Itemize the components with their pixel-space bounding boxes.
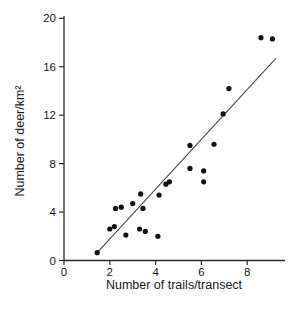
- x-tick-label: 8: [244, 266, 250, 278]
- data-point: [156, 193, 161, 198]
- x-tick-label: 2: [107, 266, 113, 278]
- data-point: [258, 35, 263, 40]
- x-tick-label: 6: [198, 266, 204, 278]
- data-point: [113, 206, 118, 211]
- data-point: [130, 201, 135, 206]
- data-point: [155, 234, 160, 239]
- scatter-plot-figure: 02468048121620 Number of trails/transect…: [0, 0, 308, 309]
- data-point: [123, 232, 128, 237]
- data-point: [187, 143, 192, 148]
- data-point: [201, 179, 206, 184]
- x-tick-label: 0: [61, 266, 67, 278]
- data-point: [95, 250, 100, 255]
- y-tick-label: 8: [50, 158, 56, 170]
- data-point: [201, 168, 206, 173]
- data-point: [226, 86, 231, 91]
- data-point: [167, 179, 172, 184]
- x-tick-label: 4: [152, 266, 159, 278]
- data-point: [137, 226, 142, 231]
- data-point: [140, 206, 145, 211]
- y-tick-label: 4: [50, 206, 57, 218]
- x-axis-title: Number of trails/transect: [106, 278, 243, 292]
- y-axis-title: Number of deer/km²: [13, 85, 27, 196]
- data-point: [270, 36, 275, 41]
- data-point: [211, 142, 216, 147]
- data-point: [119, 205, 124, 210]
- data-point: [187, 166, 192, 171]
- y-tick-label: 12: [43, 109, 56, 121]
- data-point: [221, 111, 226, 116]
- data-point: [112, 224, 117, 229]
- data-point: [138, 191, 143, 196]
- trend-line: [97, 58, 276, 252]
- scatter-plot: 02468048121620 Number of trails/transect…: [0, 0, 308, 309]
- y-tick-label: 20: [43, 12, 56, 24]
- y-tick-label: 0: [50, 255, 56, 267]
- data-point: [143, 229, 148, 234]
- y-tick-label: 16: [43, 61, 56, 73]
- data-point: [107, 226, 112, 231]
